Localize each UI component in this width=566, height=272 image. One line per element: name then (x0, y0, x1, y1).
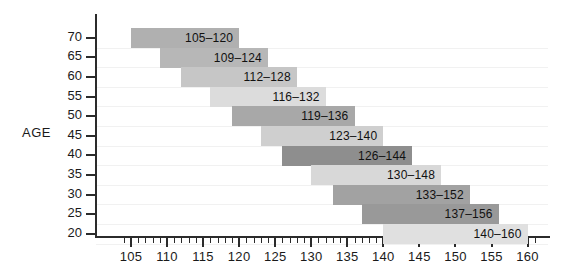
range-bar-label: 130–148 (387, 168, 435, 182)
x-tick-minor (254, 238, 255, 243)
range-bar: 105–120 (131, 28, 239, 48)
x-tick-minor (333, 238, 334, 243)
range-bar: 119–136 (232, 106, 355, 126)
range-bar-label: 126–144 (358, 149, 406, 163)
range-bar: 133–152 (333, 185, 470, 205)
x-tick-minor (290, 238, 291, 243)
x-tick-label: 160 (508, 249, 548, 264)
range-bar-label: 119–136 (301, 109, 348, 123)
y-tick-mark (86, 135, 95, 137)
y-tick-mark (86, 115, 95, 117)
x-tick-minor (145, 238, 146, 243)
x-tick-label: 115 (183, 249, 223, 264)
x-tick-label: 120 (219, 249, 259, 264)
x-tick-minor (369, 238, 370, 243)
y-axis-title: AGE (22, 125, 51, 140)
x-tick-major (346, 238, 348, 247)
x-tick-label: 140 (363, 249, 403, 264)
x-tick-major (238, 238, 240, 247)
x-tick-minor (174, 238, 175, 243)
x-tick-minor (153, 238, 154, 243)
y-tick-label: 60 (56, 68, 82, 83)
y-tick-mark (86, 76, 95, 78)
y-tick-mark (86, 194, 95, 196)
y-tick-label: 70 (56, 29, 82, 44)
x-tick-minor (160, 238, 161, 243)
y-tick-mark (86, 174, 95, 176)
x-tick-minor (196, 238, 197, 243)
y-tick-mark (86, 213, 95, 215)
y-tick-mark (86, 37, 95, 39)
x-tick-minor (210, 238, 211, 243)
range-bar-label: 140–160 (473, 227, 521, 241)
range-bar: 137–156 (362, 204, 499, 224)
range-bar-label: 123–140 (329, 129, 377, 143)
x-tick-major (310, 238, 312, 247)
x-tick-minor (261, 238, 262, 243)
range-bar-label: 137–156 (445, 207, 493, 221)
x-tick-minor (138, 238, 139, 243)
x-tick-minor (225, 238, 226, 243)
x-tick-minor (376, 238, 377, 243)
x-tick-minor (232, 238, 233, 243)
x-tick-label: 125 (255, 249, 295, 264)
x-tick-label: 135 (327, 249, 367, 264)
x-tick-minor (340, 238, 341, 243)
y-tick-mark (86, 233, 95, 235)
x-tick-label: 150 (435, 249, 475, 264)
x-tick-minor (218, 238, 219, 243)
x-tick-label: 105 (111, 249, 151, 264)
x-tick-minor (326, 238, 327, 243)
x-tick-minor (355, 238, 356, 243)
x-tick-label: 145 (399, 249, 439, 264)
range-bar: 112–128 (181, 67, 296, 87)
range-bar: 140–160 (383, 224, 527, 244)
range-bar-label: 105–120 (185, 31, 233, 45)
range-bar: 130–148 (311, 165, 441, 185)
range-bar-label: 109–124 (214, 51, 262, 65)
range-bar: 116–132 (210, 87, 325, 107)
y-tick-label: 50 (56, 107, 82, 122)
x-tick-label: 130 (291, 249, 331, 264)
x-tick-minor (124, 238, 125, 243)
x-tick-minor (318, 238, 319, 243)
range-bar: 109–124 (160, 48, 268, 68)
y-tick-mark (86, 96, 95, 98)
y-tick-label: 45 (56, 127, 82, 142)
range-bar-label: 112–128 (244, 70, 291, 84)
y-tick-label: 35 (56, 166, 82, 181)
x-tick-minor (282, 238, 283, 243)
y-tick-label: 25 (56, 205, 82, 220)
x-tick-label: 155 (472, 249, 512, 264)
x-tick-minor (304, 238, 305, 243)
x-tick-minor (189, 238, 190, 243)
x-tick-major (166, 238, 168, 247)
x-tick-minor (181, 238, 182, 243)
range-bar: 123–140 (261, 126, 384, 146)
y-axis-line (95, 14, 97, 237)
x-tick-minor (297, 238, 298, 243)
range-bar-label: 133–152 (416, 188, 464, 202)
range-bar: 126–144 (282, 146, 412, 166)
y-tick-label: 65 (56, 48, 82, 63)
x-tick-minor (268, 238, 269, 243)
x-tick-minor (535, 238, 536, 243)
y-tick-label: 30 (56, 186, 82, 201)
range-bar-label: 116–132 (272, 90, 319, 104)
x-tick-major (130, 238, 132, 247)
y-tick-label: 40 (56, 146, 82, 161)
y-tick-mark (86, 56, 95, 58)
y-tick-mark (86, 154, 95, 156)
y-tick-label: 55 (56, 88, 82, 103)
y-tick-label: 20 (56, 225, 82, 240)
x-tick-major (274, 238, 276, 247)
x-tick-major (202, 238, 204, 247)
x-tick-label: 110 (147, 249, 187, 264)
x-tick-minor (246, 238, 247, 243)
range-bar-chart: AGE 7065605550454035302520 1051101151201… (0, 0, 566, 272)
x-tick-minor (362, 238, 363, 243)
